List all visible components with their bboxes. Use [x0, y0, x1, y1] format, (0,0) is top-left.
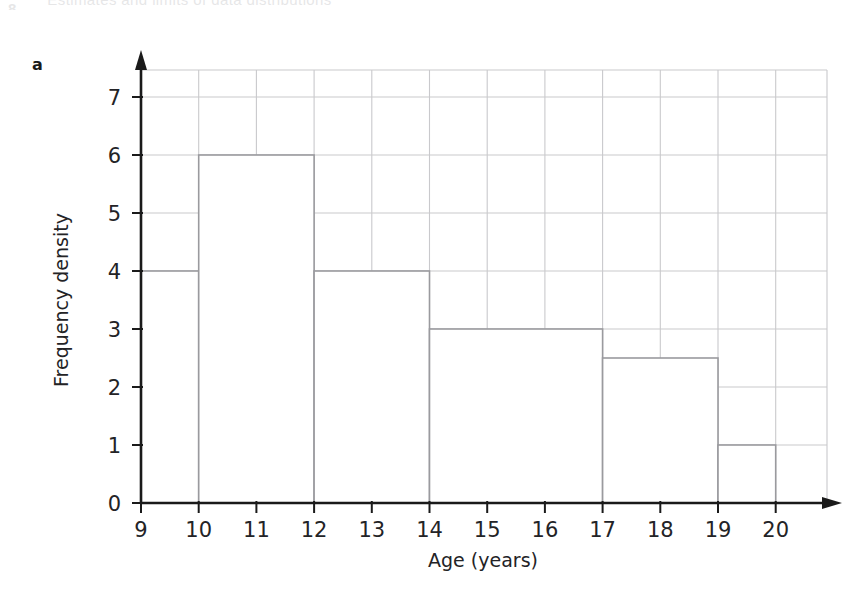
y-tick-label: 3	[108, 318, 121, 342]
y-tick-label: 7	[108, 86, 121, 110]
y-axis-arrowhead	[135, 50, 147, 70]
x-axis-tick-labels: 91011121314151617181920	[134, 518, 789, 542]
y-tick-label: 1	[108, 434, 121, 458]
y-tick-label: 5	[108, 202, 121, 226]
chart-canvas: 91011121314151617181920 01234567 Age (ye…	[0, 0, 864, 604]
histogram-chart: 91011121314151617181920 01234567 Age (ye…	[0, 0, 864, 604]
x-tick-label: 20	[762, 518, 789, 542]
x-axis-arrowhead	[822, 497, 842, 509]
histogram-bar	[603, 358, 718, 503]
y-tick-label: 0	[108, 492, 121, 516]
x-tick-label: 11	[243, 518, 270, 542]
x-tick-label: 19	[705, 518, 732, 542]
x-tick-label: 16	[532, 518, 559, 542]
x-tick-label: 15	[474, 518, 501, 542]
y-axis-title: Frequency density	[50, 213, 72, 387]
x-tick-label: 13	[358, 518, 385, 542]
y-tick-label: 2	[108, 376, 121, 400]
x-tick-label: 18	[647, 518, 674, 542]
y-axis-tick-labels: 01234567	[108, 86, 121, 516]
histogram-bar	[141, 271, 199, 503]
x-tick-label: 10	[185, 518, 212, 542]
y-tick-label: 4	[108, 260, 121, 284]
y-tick-label: 6	[108, 144, 121, 168]
histogram-bar	[199, 155, 314, 503]
x-tick-label: 17	[589, 518, 616, 542]
x-tick-label: 14	[416, 518, 443, 542]
x-tick-label: 12	[301, 518, 328, 542]
histogram-bar	[314, 271, 429, 503]
x-tick-label: 9	[134, 518, 147, 542]
histogram-bar	[430, 329, 603, 503]
x-axis-title: Age (years)	[428, 549, 538, 571]
histogram-bar	[718, 445, 776, 503]
